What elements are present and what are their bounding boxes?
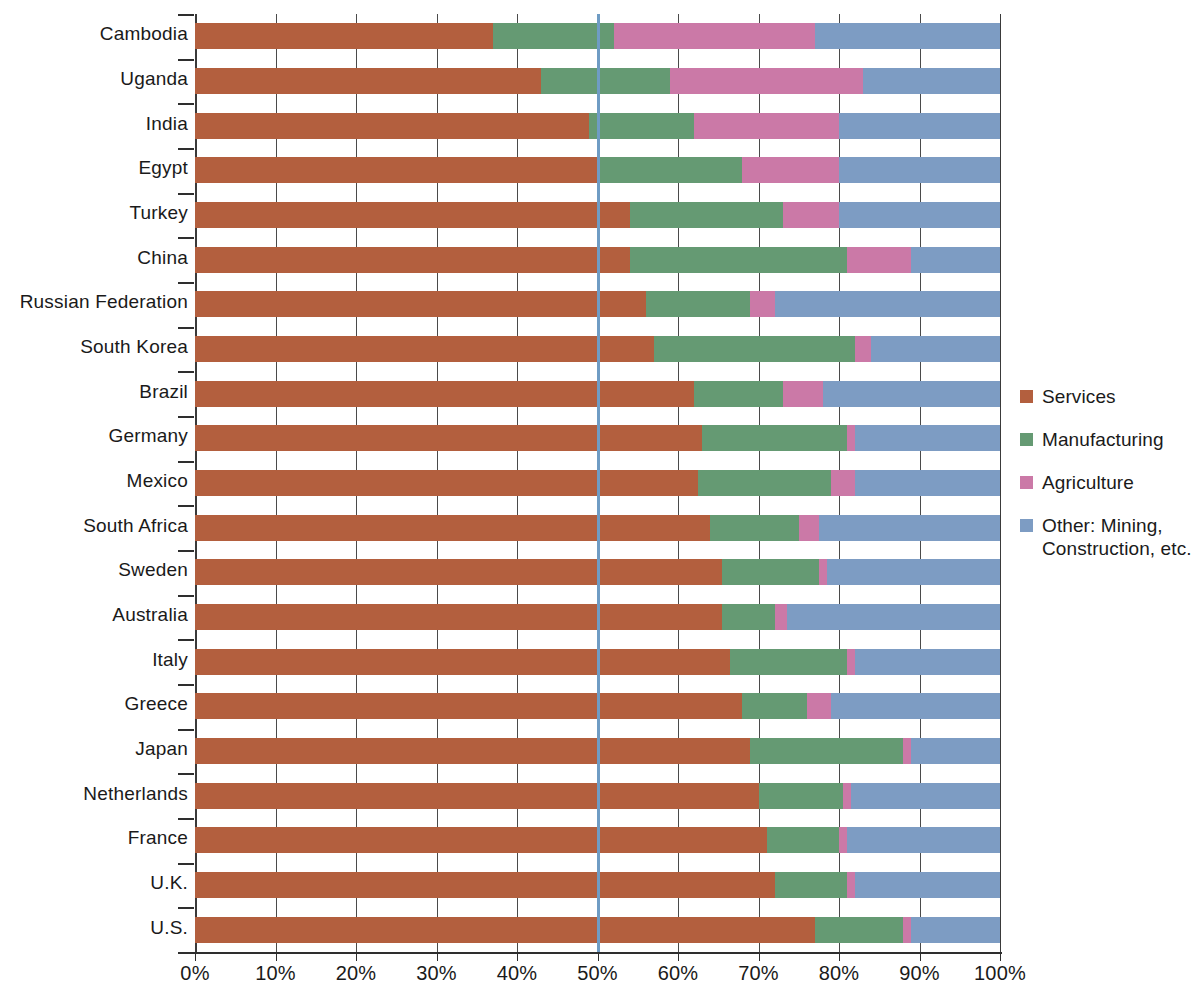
legend-swatch-icon xyxy=(1020,390,1033,403)
bar-segment[interactable] xyxy=(851,783,1000,809)
bar-segment[interactable] xyxy=(646,291,751,317)
bar-segment[interactable] xyxy=(195,783,759,809)
bar-segment[interactable] xyxy=(722,559,819,585)
bar-segment[interactable] xyxy=(598,157,743,183)
bar-segment[interactable] xyxy=(911,247,1000,273)
bar-segment[interactable] xyxy=(799,515,819,541)
bar-segment[interactable] xyxy=(702,425,847,451)
bar-segment[interactable] xyxy=(839,202,1000,228)
bar-segment[interactable] xyxy=(742,157,839,183)
bar-segment[interactable] xyxy=(589,113,694,139)
bar-segment[interactable] xyxy=(541,68,670,94)
bar-segment[interactable] xyxy=(831,470,855,496)
bar-segment[interactable] xyxy=(698,470,831,496)
bar-segment[interactable] xyxy=(694,113,839,139)
bar-segment[interactable] xyxy=(195,470,698,496)
bar-segment[interactable] xyxy=(195,113,589,139)
bar-segment[interactable] xyxy=(903,738,911,764)
y-axis-label: Japan xyxy=(0,738,202,760)
bar-segment[interactable] xyxy=(195,917,815,943)
bar-segment[interactable] xyxy=(787,604,1000,630)
bar-segment[interactable] xyxy=(493,23,614,49)
bar-segment[interactable] xyxy=(807,693,831,719)
bar-segment[interactable] xyxy=(195,649,730,675)
legend-item[interactable]: Services xyxy=(1020,385,1198,408)
bar-segment[interactable] xyxy=(819,515,1000,541)
bar-segment[interactable] xyxy=(670,68,863,94)
bar-segment[interactable] xyxy=(911,738,1000,764)
bar-segment[interactable] xyxy=(195,247,630,273)
y-axis-tick xyxy=(178,461,194,463)
bar-segment[interactable] xyxy=(759,783,844,809)
bar-segment[interactable] xyxy=(195,425,702,451)
bar-segment[interactable] xyxy=(847,649,855,675)
bar-segment[interactable] xyxy=(195,693,742,719)
bar-segment[interactable] xyxy=(195,515,710,541)
bar-segment[interactable] xyxy=(195,291,646,317)
legend-item[interactable]: Agriculture xyxy=(1020,471,1198,494)
bar-segment[interactable] xyxy=(911,917,1000,943)
bar-segment[interactable] xyxy=(195,381,694,407)
bar-segment[interactable] xyxy=(195,157,598,183)
y-axis-tick xyxy=(178,14,194,16)
bar-segment[interactable] xyxy=(195,68,541,94)
bar-segment[interactable] xyxy=(871,336,1000,362)
bar-segment[interactable] xyxy=(847,827,1000,853)
bar-segment[interactable] xyxy=(195,336,654,362)
y-axis-tick xyxy=(178,416,194,418)
bar-segment[interactable] xyxy=(783,202,839,228)
bar-segment[interactable] xyxy=(815,23,1000,49)
bar-segment[interactable] xyxy=(855,649,1000,675)
bar-segment[interactable] xyxy=(823,381,1000,407)
bar-segment[interactable] xyxy=(767,827,839,853)
y-axis-tick xyxy=(178,907,194,909)
bar-segment[interactable] xyxy=(195,872,775,898)
bar-segment[interactable] xyxy=(855,425,1000,451)
bar-segment[interactable] xyxy=(847,872,855,898)
bar-segment[interactable] xyxy=(831,693,1000,719)
y-axis-tick xyxy=(178,773,194,775)
bar-segment[interactable] xyxy=(855,872,1000,898)
bar-segment[interactable] xyxy=(847,247,911,273)
bar-segment[interactable] xyxy=(710,515,799,541)
bar-segment[interactable] xyxy=(654,336,855,362)
stacked-bar-chart: CambodiaUgandaIndiaEgyptTurkeyChinaRussi… xyxy=(0,0,1198,995)
bar-segment[interactable] xyxy=(722,604,774,630)
legend-item[interactable]: Other: Mining,Construction, etc. xyxy=(1020,514,1198,560)
bar-segment[interactable] xyxy=(195,738,750,764)
bar-segment[interactable] xyxy=(855,470,1000,496)
bar-segment[interactable] xyxy=(195,604,722,630)
bar-segment[interactable] xyxy=(775,291,1000,317)
bar-segment[interactable] xyxy=(783,381,823,407)
bar-segment[interactable] xyxy=(839,827,847,853)
bar-segment[interactable] xyxy=(195,202,630,228)
x-axis-label: 100% xyxy=(960,962,1040,985)
bar-segment[interactable] xyxy=(730,649,847,675)
legend-item[interactable]: Manufacturing xyxy=(1020,428,1198,451)
bar-segment[interactable] xyxy=(614,23,815,49)
bar-segment[interactable] xyxy=(630,202,783,228)
bar-segment[interactable] xyxy=(843,783,851,809)
bar-segment[interactable] xyxy=(195,23,493,49)
bar-segment[interactable] xyxy=(839,157,1000,183)
chart-legend: ServicesManufacturingAgricultureOther: M… xyxy=(1020,385,1198,580)
bar-segment[interactable] xyxy=(847,425,855,451)
bar-segment[interactable] xyxy=(750,291,774,317)
bar-segment[interactable] xyxy=(815,917,904,943)
bar-segment[interactable] xyxy=(775,604,787,630)
bar-segment[interactable] xyxy=(630,247,847,273)
bar-segment[interactable] xyxy=(195,559,722,585)
bar-segment[interactable] xyxy=(819,559,827,585)
bar-segment[interactable] xyxy=(742,693,806,719)
bar-segment[interactable] xyxy=(839,113,1000,139)
bar-segment[interactable] xyxy=(903,917,911,943)
bar-segment[interactable] xyxy=(855,336,871,362)
bar-segment[interactable] xyxy=(775,872,847,898)
bar-segment[interactable] xyxy=(195,827,767,853)
legend-label: Other: Mining,Construction, etc. xyxy=(1042,514,1192,560)
bar-segment[interactable] xyxy=(863,68,1000,94)
bar-segment[interactable] xyxy=(827,559,1000,585)
x-axis-tick xyxy=(759,952,760,961)
bar-segment[interactable] xyxy=(694,381,783,407)
bar-segment[interactable] xyxy=(750,738,903,764)
